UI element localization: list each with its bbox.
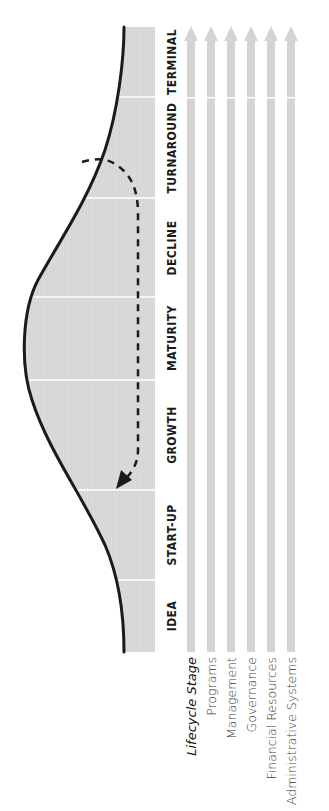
lifecycle-diagram: TERMINAL TURNAROUND DECLINE MATURITY GRO… [0,0,329,811]
stage-label-idea: IDEA [165,601,179,632]
row-label-management: Management [224,657,239,739]
arrow-financial-resources [264,26,278,652]
stage-label-maturity: MATURITY [165,305,179,371]
arrow-programs [204,26,218,652]
row-label-governance: Governance [244,657,259,732]
row-labels: Lifecycle Stage Programs Management Gove… [184,657,299,805]
stage-label-turnaround: TURNAROUND [165,102,179,193]
row-label-administrative-systems: Administrative Systems [284,657,299,805]
curve-fill-area [24,27,155,652]
stage-label-start-up: START-UP [165,504,179,565]
arrow-management [224,26,238,652]
row-label-programs: Programs [204,657,219,716]
stage-label-growth: GROWTH [165,406,179,464]
stage-labels: TERMINAL TURNAROUND DECLINE MATURITY GRO… [165,29,179,631]
stage-label-decline: DECLINE [165,220,179,275]
arrow-administrative-systems [284,26,298,652]
stage-label-terminal: TERMINAL [165,29,179,95]
row-label-lifecycle-stage: Lifecycle Stage [184,657,199,756]
arrow-lifecycle-stage [184,26,198,652]
row-label-financial-resources: Financial Resources [264,657,279,780]
dimension-arrows [184,26,298,652]
arrow-governance [244,26,258,652]
